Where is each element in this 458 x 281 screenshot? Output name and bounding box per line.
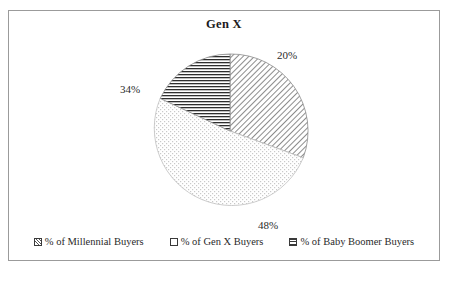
horizontal-lines-swatch-icon (289, 238, 297, 246)
chart-frame: Gen X (8, 10, 440, 261)
legend-item-baby-boomer[interactable]: % of Baby Boomer Buyers (289, 236, 414, 247)
blank-swatch-icon (170, 238, 178, 246)
data-label-baby-boomer: 34% (120, 83, 140, 95)
data-label-genx: 48% (258, 219, 278, 231)
legend-label-baby-boomer: % of Baby Boomer Buyers (300, 236, 414, 247)
plot-area: 20% 34% 48% (9, 11, 439, 260)
legend-label-millennial: % of Millennial Buyers (45, 236, 144, 247)
legend-label-genx: % of Gen X Buyers (181, 236, 264, 247)
legend-item-millennial[interactable]: % of Millennial Buyers (34, 236, 144, 247)
data-label-millennial: 20% (277, 49, 297, 61)
chart-legend: % of Millennial Buyers % of Gen X Buyers… (9, 236, 439, 247)
pie-chart (150, 47, 310, 215)
diagonal-hatch-swatch-icon (34, 238, 42, 246)
legend-item-genx[interactable]: % of Gen X Buyers (170, 236, 264, 247)
